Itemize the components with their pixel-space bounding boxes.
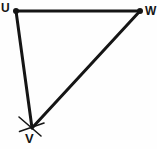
- edge-u-v: [16, 11, 32, 128]
- vertex-dot-u: [13, 8, 19, 14]
- edge-v-w: [32, 11, 140, 128]
- geometry-figure-canvas: U W V: [0, 0, 157, 149]
- vertex-label-w: W: [145, 5, 156, 17]
- vertex-label-u: U: [1, 2, 10, 14]
- triangle-uvw-drawing: [0, 0, 157, 149]
- vertex-dot-w: [137, 8, 143, 14]
- vertex-label-v: V: [25, 133, 34, 145]
